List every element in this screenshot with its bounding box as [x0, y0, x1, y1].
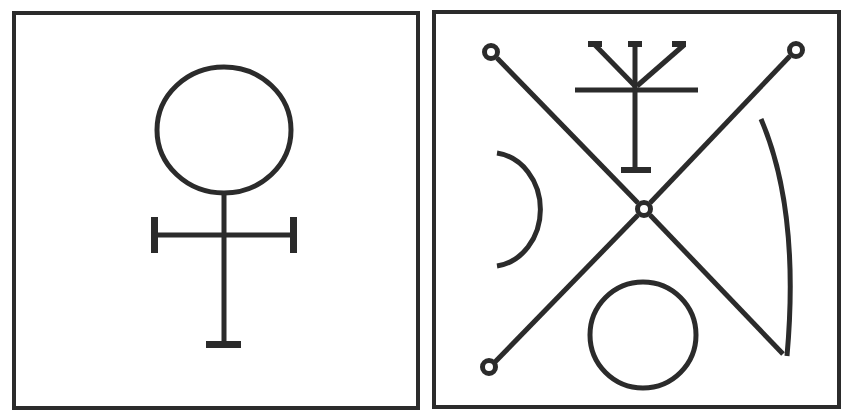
- figure: Two framed esoteric symbols side by side…: [0, 0, 856, 419]
- venus-crossbar-left-cap: [151, 217, 158, 253]
- trident-center-cap: [628, 41, 642, 47]
- trident-left-cap: [588, 41, 602, 47]
- panel-right: Sigil with crossed lines: [434, 12, 839, 407]
- panel-left-frame: [14, 13, 418, 408]
- ring-top-left-icon: [485, 46, 498, 59]
- venus-crossbar-right-cap: [290, 217, 297, 253]
- ring-center-icon: [638, 203, 651, 216]
- trident-base-bar: [621, 167, 651, 173]
- panel-left: Venus / copper alchemical symbol: [14, 13, 418, 408]
- venus-base-bar: [206, 341, 241, 348]
- ring-top-right-icon: [790, 44, 803, 57]
- trident-right-cap: [672, 41, 686, 47]
- ring-bottom-left-icon: [483, 361, 496, 374]
- symbols-canvas: Venus / copper alchemical symbol Sigil w…: [0, 0, 856, 419]
